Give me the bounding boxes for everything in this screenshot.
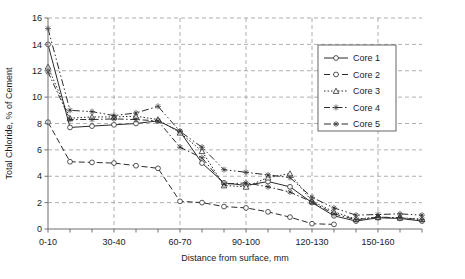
- data-point-marker: [178, 199, 183, 204]
- data-point-marker: [200, 200, 205, 205]
- legend-item-label: Core 2: [353, 70, 380, 80]
- y-axis-tick-label: 16: [32, 13, 42, 23]
- data-point-marker: [334, 72, 339, 77]
- legend-item-label: Core 1: [353, 53, 380, 63]
- y-axis-tick-label: 4: [37, 171, 42, 181]
- data-point-marker: [333, 121, 339, 127]
- y-axis-tick-label: 0: [37, 224, 42, 234]
- data-point-marker: [67, 117, 73, 123]
- y-axis-tick-label: 14: [32, 40, 42, 50]
- data-point-marker: [112, 122, 117, 127]
- y-axis-tick-label: 10: [32, 92, 42, 102]
- x-axis-tick-label: 90-100: [232, 237, 260, 247]
- data-point-marker: [333, 105, 339, 111]
- data-point-marker: [67, 107, 73, 113]
- data-point-marker: [244, 206, 249, 211]
- x-axis-title: Distance from surface, mm: [181, 253, 289, 263]
- legend-item-label: Core 3: [353, 86, 380, 96]
- data-point-marker: [310, 221, 315, 226]
- data-point-marker: [112, 161, 117, 166]
- data-point-marker: [133, 117, 139, 123]
- y-axis-title: Total Chloride, % of Cement: [4, 67, 14, 180]
- y-axis-tick-label: 2: [37, 198, 42, 208]
- data-point-marker: [334, 56, 339, 61]
- data-point-marker: [332, 222, 337, 227]
- x-axis-tick-label: 120-130: [295, 237, 328, 247]
- data-point-marker: [200, 161, 205, 166]
- data-point-marker: [89, 117, 95, 123]
- x-axis-tick-label: 150-160: [361, 237, 394, 247]
- legend-item-label: Core 4: [353, 103, 380, 113]
- data-point-marker: [90, 124, 95, 129]
- y-axis-tick-label: 12: [32, 66, 42, 76]
- data-point-marker: [266, 209, 271, 214]
- data-point-marker: [133, 110, 139, 116]
- x-axis-tick-label: 60-70: [168, 237, 191, 247]
- data-point-marker: [89, 109, 95, 115]
- legend-item-label: Core 5: [353, 119, 380, 129]
- data-point-marker: [288, 215, 293, 220]
- x-axis-tick-label: 0-10: [39, 237, 57, 247]
- data-point-marker: [156, 166, 161, 171]
- data-point-marker: [243, 180, 249, 186]
- data-point-marker: [68, 159, 73, 164]
- data-point-marker: [111, 113, 117, 119]
- total-chloride-line-chart: 02468101214160-1030-4060-7090-100120-130…: [0, 0, 465, 279]
- data-point-marker: [288, 184, 293, 189]
- data-point-marker: [222, 204, 227, 209]
- data-point-marker: [134, 163, 139, 168]
- y-axis-tick-label: 6: [37, 145, 42, 155]
- chart-container: 02468101214160-1030-4060-7090-100120-130…: [0, 0, 465, 279]
- y-axis-tick-label: 8: [37, 119, 42, 129]
- data-point-marker: [221, 167, 227, 173]
- x-axis-tick-label: 30-40: [102, 237, 125, 247]
- data-point-marker: [90, 160, 95, 165]
- data-point-marker: [155, 118, 161, 124]
- legend: Core 1Core 2Core 3Core 4Core 5: [318, 45, 396, 131]
- data-point-marker: [155, 103, 161, 109]
- data-point-marker: [68, 125, 73, 130]
